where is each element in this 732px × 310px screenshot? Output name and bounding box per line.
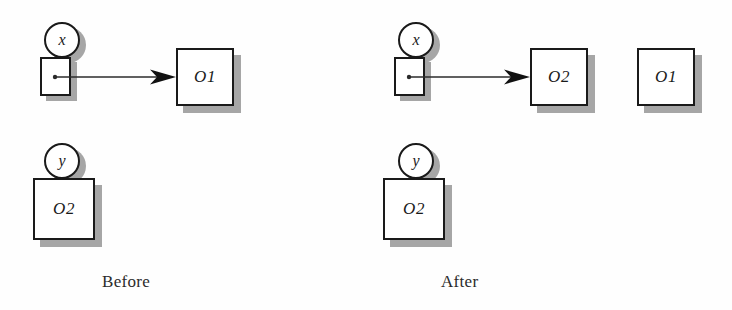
caption-after: After (441, 272, 478, 292)
diagram-canvas: x O1 O2 y Before (0, 0, 732, 310)
reference-arrow-x-to-o2 (0, 0, 732, 310)
panel-after: x O2 O1 O2 (0, 0, 732, 310)
caption-before: Before (102, 272, 150, 292)
